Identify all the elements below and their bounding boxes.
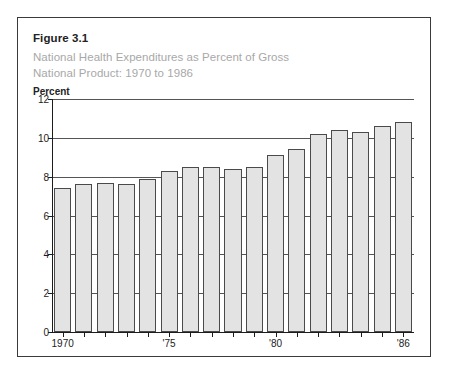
y-axis-tick-mark (48, 138, 52, 139)
x-axis-tick-mark (339, 332, 340, 337)
x-axis-tick-mark (276, 332, 277, 337)
x-axis-tick-mark (212, 332, 213, 337)
y-axis-tick-label: 4 (27, 249, 49, 260)
y-axis-tick-mark (48, 254, 52, 255)
x-axis-tick-label: 1970 (52, 338, 74, 349)
y-axis-tick-label: 8 (27, 171, 49, 182)
bar (395, 122, 412, 332)
x-axis-tick-mark (361, 332, 362, 337)
y-axis-tick-labels: 024681012 (25, 99, 49, 332)
bar (97, 183, 114, 333)
y-axis-tick-label: 6 (27, 210, 49, 221)
x-axis-tick-label: '86 (397, 338, 410, 349)
bar (182, 167, 199, 332)
figure-subtitle: National Health Expenditures as Percent … (33, 49, 363, 81)
bar (288, 149, 305, 332)
x-axis-tick-mark (84, 332, 85, 337)
y-axis-tick-marks (52, 99, 58, 332)
y-axis-tick-label: 0 (27, 327, 49, 338)
bar (267, 155, 284, 332)
x-axis-tick-mark (382, 332, 383, 337)
bar (374, 126, 391, 332)
bar (161, 171, 178, 332)
y-axis-tick-mark (48, 216, 52, 217)
y-axis-tick-label: 2 (27, 288, 49, 299)
bar (139, 179, 156, 332)
bar (75, 184, 92, 332)
x-axis-tick-mark (297, 332, 298, 337)
page-canvas: Figure 3.1 National Health Expenditures … (0, 0, 449, 386)
x-axis-tick-label: '80 (269, 338, 282, 349)
x-axis-tick-mark (105, 332, 106, 337)
x-axis-tick-mark (403, 332, 404, 337)
x-axis-tick-mark (63, 332, 64, 337)
bar (352, 132, 369, 332)
y-axis-tick-mark (48, 177, 52, 178)
x-axis-tick-mark (254, 332, 255, 337)
y-axis-tick-mark (48, 99, 52, 100)
x-axis-tick-mark (169, 332, 170, 337)
bar (310, 134, 327, 332)
x-axis-tick-labels: 1970'75'80'86 (52, 338, 414, 352)
bar (203, 167, 220, 332)
x-axis-tick-mark (127, 332, 128, 337)
chart-plot-area (52, 99, 414, 332)
bar (331, 130, 348, 332)
x-axis-tick-mark (318, 332, 319, 337)
bar (246, 167, 263, 332)
bar (224, 169, 241, 332)
y-axis-tick-label: 12 (27, 94, 49, 105)
figure-number-label: Figure 3.1 (33, 32, 88, 44)
y-axis-tick-mark (48, 293, 52, 294)
y-axis-tick-label: 10 (27, 132, 49, 143)
figure-subtitle-line-1: National Health Expenditures as Percent … (33, 49, 363, 65)
figure-subtitle-line-2: National Product: 1970 to 1986 (33, 65, 363, 81)
x-axis-tick-label: '75 (163, 338, 176, 349)
bar (118, 184, 135, 332)
x-axis-tick-mark (190, 332, 191, 337)
x-axis-tick-mark (148, 332, 149, 337)
x-axis-tick-mark (233, 332, 234, 337)
gridline (52, 99, 414, 100)
